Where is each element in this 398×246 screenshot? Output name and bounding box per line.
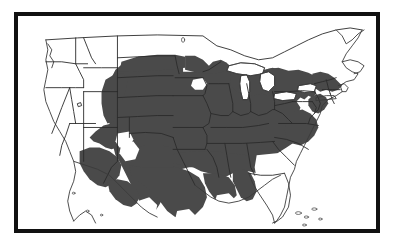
map-frame	[14, 12, 380, 233]
island-1	[295, 212, 301, 215]
island-5	[302, 224, 306, 226]
great-salt-lake	[78, 103, 82, 107]
island-2	[304, 216, 308, 218]
island-7	[86, 210, 89, 212]
figure-page	[0, 0, 398, 246]
island-3	[312, 208, 317, 210]
us-distribution-map	[18, 16, 376, 229]
island-8	[100, 214, 102, 216]
island-6	[72, 192, 75, 194]
island-4	[319, 218, 323, 220]
island-9	[181, 37, 184, 42]
